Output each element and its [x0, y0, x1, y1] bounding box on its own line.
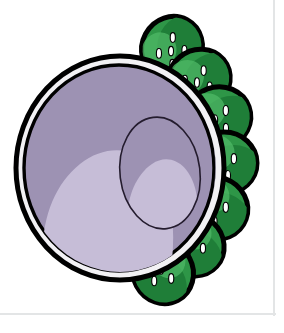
disc-pore [200, 243, 205, 253]
disc-pore [169, 46, 174, 55]
frame-right-rule [273, 0, 275, 316]
disc-pore [170, 33, 175, 43]
disc-pore [152, 276, 157, 285]
disc-pore [223, 202, 228, 212]
disc-pore [169, 274, 174, 284]
frame-bottom-rule [0, 313, 276, 315]
illustration-canvas [0, 0, 284, 333]
disc-pore [231, 154, 236, 164]
disc-pore [201, 66, 206, 76]
disc-pore [156, 48, 161, 58]
organelle-diagram [0, 0, 284, 333]
disc-pore [194, 78, 199, 87]
disc-pore [223, 105, 228, 115]
